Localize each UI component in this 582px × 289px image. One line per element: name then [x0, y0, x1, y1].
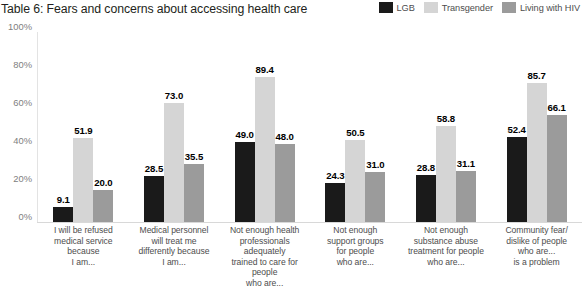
category-label: Not enoughsubstance abusetreatment for p… [401, 225, 492, 275]
category-label-line: because [40, 246, 127, 257]
bar-groups: 9.151.920.028.573.035.549.089.448.024.35… [38, 32, 582, 222]
bar-lgb[interactable]: 9.1 [53, 32, 73, 222]
bar-lgb[interactable]: 24.3 [325, 32, 345, 222]
bar-rect [255, 77, 275, 222]
bar-rect [164, 103, 184, 222]
bar-rect [507, 137, 527, 222]
bar-group: 9.151.920.0 [38, 32, 129, 222]
category-label-line: support groups [312, 236, 399, 247]
bar-rect [365, 172, 385, 222]
bar-rect [53, 207, 73, 222]
y-axis-tick-label: 40% [13, 135, 32, 146]
bar-value-label: 48.0 [276, 131, 294, 142]
bar-value-label: 24.3 [326, 170, 344, 181]
bar-transgender[interactable]: 73.0 [164, 32, 184, 222]
category-label-line: who are... [312, 257, 399, 268]
bar-value-label: 31.0 [366, 159, 384, 170]
bar-value-label: 66.1 [547, 102, 565, 113]
y-axis-tick-label: 0% [18, 211, 32, 222]
bar-rect [73, 138, 93, 222]
bar-rect [325, 183, 345, 222]
category-label-line: will treat me [131, 236, 218, 247]
bar-rect [345, 140, 365, 222]
x-axis-baseline [37, 222, 582, 223]
bar-transgender[interactable]: 58.8 [436, 32, 456, 222]
category-label-line: substance abuse [403, 236, 490, 247]
category-label-line: Not enough [312, 225, 399, 236]
category-label: I will be refusedmedical servicebecauseI… [38, 225, 129, 275]
bar-value-label: 35.5 [185, 151, 203, 162]
bar-rect [235, 142, 255, 222]
bar-rect [456, 171, 476, 222]
bar-group: 28.573.035.5 [129, 32, 220, 222]
category-label-line: is a problem [493, 257, 580, 268]
category-label-line: I am... [40, 257, 127, 268]
category-label-line: dislike of people [493, 236, 580, 247]
bar-rect [144, 176, 164, 222]
category-label: Not enoughsupport groupsfor peoplewho ar… [310, 225, 401, 275]
bar-lgb[interactable]: 28.8 [416, 32, 436, 222]
category-label-line: who are... [403, 257, 490, 268]
bar-rect [547, 115, 567, 222]
bar-transgender[interactable]: 85.7 [527, 32, 547, 222]
y-axis-tick-label: 100% [8, 21, 32, 32]
bar-value-label: 20.0 [94, 177, 112, 188]
category-label-line: who are... [221, 278, 308, 289]
bar-group: 52.485.766.1 [491, 32, 582, 222]
bar-living-with-hiv[interactable]: 48.0 [275, 32, 295, 222]
legend-item-label: Transgender [442, 3, 493, 13]
legend-item-lgb[interactable]: LGB [379, 2, 415, 13]
category-label-line: I am... [131, 257, 218, 268]
y-axis-tick-label: 20% [13, 173, 32, 184]
legend-item-transgender[interactable]: Transgender [424, 2, 493, 13]
legend-item-label: Living with HIV [520, 3, 580, 13]
bar-transgender[interactable]: 89.4 [255, 32, 275, 222]
chart-header: Table 6: Fears and concerns about access… [0, 0, 582, 20]
bar-value-label: 52.4 [507, 124, 525, 135]
bar-transgender[interactable]: 50.5 [345, 32, 365, 222]
bar-rect [93, 190, 113, 222]
bar-living-with-hiv[interactable]: 35.5 [184, 32, 204, 222]
bar-value-label: 85.7 [527, 70, 545, 81]
bar-rect [436, 126, 456, 222]
bar-lgb[interactable]: 49.0 [235, 32, 255, 222]
bar-value-label: 28.5 [145, 163, 163, 174]
bar-rect [527, 83, 547, 222]
bar-transgender[interactable]: 51.9 [73, 32, 93, 222]
legend-item-label: LGB [397, 3, 415, 13]
bar-group: 24.350.531.0 [310, 32, 401, 222]
bar-lgb[interactable]: 52.4 [507, 32, 527, 222]
y-axis: 0%20%40%60%80%100% [0, 26, 36, 222]
bar-value-label: 51.9 [74, 125, 92, 136]
category-label-line: treatment for people [403, 246, 490, 257]
bar-value-label: 58.8 [437, 113, 455, 124]
page-title: Table 6: Fears and concerns about access… [1, 2, 307, 16]
bar-rect [275, 144, 295, 222]
bar-living-with-hiv[interactable]: 31.0 [365, 32, 385, 222]
legend-swatch-icon [424, 2, 438, 13]
category-label-line: I will be refused [40, 225, 127, 236]
bar-value-label: 89.4 [256, 64, 274, 75]
category-label-line: Community fear/ [493, 225, 580, 236]
legend-swatch-icon [379, 2, 393, 13]
bar-living-with-hiv[interactable]: 66.1 [547, 32, 567, 222]
bar-rect [416, 175, 436, 222]
bar-rect [184, 164, 204, 222]
category-label-line: Medical personnel [131, 225, 218, 236]
category-label-line: medical service [40, 236, 127, 247]
legend-item-living-with-hiv[interactable]: Living with HIV [502, 2, 580, 13]
y-axis-tick-label: 60% [13, 97, 32, 108]
bar-living-with-hiv[interactable]: 20.0 [93, 32, 113, 222]
bar-lgb[interactable]: 28.5 [144, 32, 164, 222]
category-label-line: Not enough health [221, 225, 308, 236]
category-label: Not enough healthprofessionals adequatel… [219, 225, 310, 275]
bar-value-label: 73.0 [165, 90, 183, 101]
category-label-line: for people [312, 246, 399, 257]
category-label-line: professionals adequately [221, 236, 308, 257]
bar-living-with-hiv[interactable]: 31.1 [456, 32, 476, 222]
bar-value-label: 49.0 [236, 129, 254, 140]
bar-group: 28.858.831.1 [401, 32, 492, 222]
chart-legend: LGBTransgenderLiving with HIV [370, 2, 580, 13]
category-label-line: differently because [131, 246, 218, 257]
legend-swatch-icon [502, 2, 516, 13]
